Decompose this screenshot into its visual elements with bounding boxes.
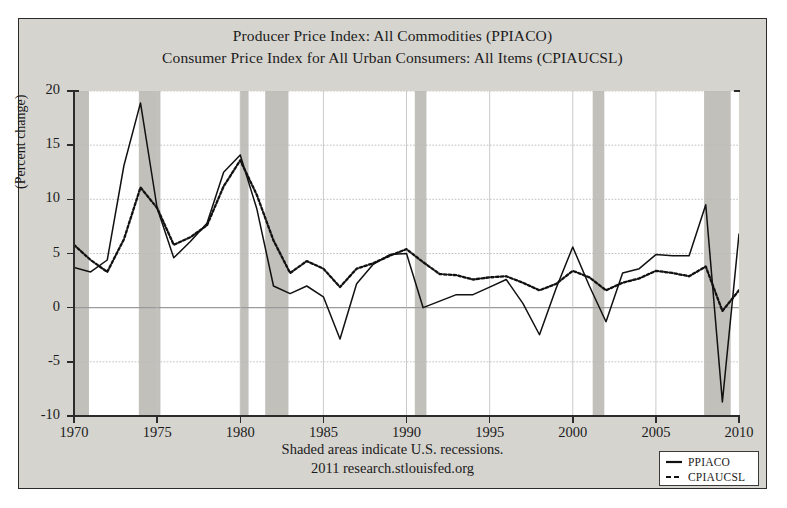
x-tick-1985 [323,416,325,423]
y-tick-10 [67,199,74,201]
x-tick-2010 [738,416,740,423]
chart-footer: Shaded areas indicate U.S. recessions. 2… [19,440,766,477]
x-tick-label-1990: 1990 [377,424,437,441]
y-tick-label-20: 20 [14,81,60,98]
x-tick-1995 [489,416,491,423]
legend-label-ppiaco: PPIACO [688,456,730,468]
legend-item-ppiaco: PPIACO [665,455,754,469]
x-tick-label-2000: 2000 [543,424,603,441]
y-tick-label-10: 10 [14,189,60,206]
y-tick-15 [67,144,74,146]
legend-item-cpiaucsl: CPIAUCSL [665,470,754,484]
x-tick-label-1980: 1980 [210,424,270,441]
x-tick-label-1985: 1985 [293,424,353,441]
x-axis-right-cap [734,90,740,92]
legend-key-solid-icon [665,457,683,467]
y-tick-20 [67,90,74,92]
x-tick-label-2010: 2010 [709,424,769,441]
x-tick-1970 [73,416,75,423]
x-tick-label-1975: 1975 [127,424,187,441]
chart-figure: Producer Price Index: All Commodities (P… [18,18,767,489]
chart-legend: PPIACO CPIAUCSL [659,451,759,486]
x-tick-1975 [156,416,158,423]
x-tick-label-2005: 2005 [626,424,686,441]
legend-label-cpiaucsl: CPIAUCSL [688,471,745,483]
y-tick-label--10: -10 [14,406,60,423]
footer-line-recessions: Shaded areas indicate U.S. recessions. [19,440,766,459]
chart-title-line-2: Consumer Price Index for All Urban Consu… [19,47,766,69]
y-tick-label--5: -5 [14,352,60,369]
y-tick--5 [67,361,74,363]
x-tick-label-1995: 1995 [460,424,520,441]
footer-line-source: 2011 research.stlouisfed.org [19,459,766,478]
y-tick-label-5: 5 [14,244,60,261]
y-tick-label-15: 15 [14,135,60,152]
x-tick-label-1970: 1970 [44,424,104,441]
plot-area [74,91,739,416]
x-tick-1990 [406,416,408,423]
x-tick-2000 [572,416,574,423]
y-tick-0 [67,307,74,309]
chart-title: Producer Price Index: All Commodities (P… [19,25,766,70]
y-tick-label-0: 0 [14,298,60,315]
legend-key-dashed-icon [665,472,683,482]
x-tick-2005 [655,416,657,423]
chart-plot-svg [74,91,739,416]
y-tick-5 [67,253,74,255]
x-tick-1980 [240,416,242,423]
chart-title-line-1: Producer Price Index: All Commodities (P… [19,25,766,47]
